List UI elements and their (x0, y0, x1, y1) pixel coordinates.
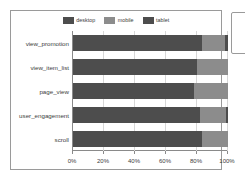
x-tick-mark (196, 151, 197, 154)
y-axis-label-scroll: scroll (11, 131, 69, 147)
chart-card: desktop mobile tablet view_promotionview… (10, 10, 222, 170)
x-tick-mark (134, 151, 135, 154)
x-tick-label: 80% (190, 158, 202, 164)
bar-segment-desktop[interactable] (73, 107, 200, 123)
chart-legend: desktop mobile tablet (11, 16, 221, 25)
legend-swatch-mobile (104, 17, 115, 24)
legend-label-desktop: desktop (76, 18, 95, 23)
legend-item-mobile[interactable]: mobile (104, 17, 133, 24)
side-panel (231, 12, 245, 54)
legend-item-desktop[interactable]: desktop (63, 17, 95, 24)
bar-row-page_view[interactable] (73, 83, 228, 99)
plot-area: 0%20%40%60%80%100% (72, 31, 228, 151)
legend-swatch-desktop (63, 17, 74, 24)
bar-segment-tablet[interactable] (225, 35, 228, 51)
legend-label-tablet: tablet (156, 18, 169, 23)
bar-segment-tablet[interactable] (226, 107, 228, 123)
x-tick-mark (227, 151, 228, 154)
bar-segment-mobile[interactable] (202, 35, 225, 51)
y-axis-label-user_engagement: user_engagement (11, 107, 69, 123)
x-tick-label: 20% (97, 158, 109, 164)
x-tick-mark (103, 151, 104, 154)
x-tick-mark (72, 151, 73, 154)
bar-row-view_promotion[interactable] (73, 35, 228, 51)
x-tick-label: 100% (219, 158, 234, 164)
bar-segment-mobile[interactable] (197, 59, 228, 75)
x-tick-mark (165, 151, 166, 154)
bar-row-view_item_list[interactable] (73, 59, 228, 75)
legend-label-mobile: mobile (118, 18, 134, 23)
legend-swatch-tablet (143, 17, 154, 24)
x-tick-label: 0% (68, 158, 77, 164)
bar-segment-desktop[interactable] (73, 35, 202, 51)
bar-row-user_engagement[interactable] (73, 107, 228, 123)
bar-segment-desktop[interactable] (73, 83, 194, 99)
legend-item-tablet[interactable]: tablet (143, 17, 170, 24)
bar-group (73, 31, 228, 151)
y-axis-label-view_item_list: view_item_list (11, 59, 69, 75)
y-axis-label-view_promotion: view_promotion (11, 35, 69, 51)
bar-row-scroll[interactable] (73, 131, 228, 147)
x-tick-label: 40% (128, 158, 140, 164)
x-tick-label: 60% (159, 158, 171, 164)
y-axis-labels: view_promotionview_item_listpage_viewuse… (11, 31, 69, 151)
bar-segment-desktop[interactable] (73, 131, 202, 147)
y-axis-label-page_view: page_view (11, 83, 69, 99)
bar-segment-desktop[interactable] (73, 59, 197, 75)
bar-segment-mobile[interactable] (194, 83, 228, 99)
bar-segment-mobile[interactable] (202, 131, 228, 147)
bar-segment-mobile[interactable] (200, 107, 226, 123)
